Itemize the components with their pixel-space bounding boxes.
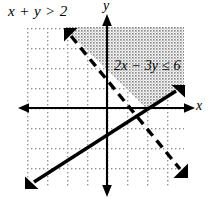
x-axis-label: x: [196, 99, 202, 113]
inequality-label-1: x + y > 2: [8, 4, 68, 19]
inequality-graph-figure: x + y > 2 2x − 3y ≤ 6 y x: [0, 0, 211, 198]
y-axis-label: y: [103, 0, 109, 13]
inequality-label-2: 2x − 3y ≤ 6: [114, 59, 181, 73]
graph-canvas: [0, 0, 211, 198]
